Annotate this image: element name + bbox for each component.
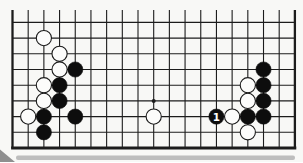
star-point: [152, 99, 156, 103]
black-stone: [256, 93, 271, 108]
black-stone: [36, 125, 51, 140]
white-stone: [36, 30, 51, 45]
white-stone: [52, 46, 67, 61]
black-stone: [256, 109, 271, 124]
white-stone: [36, 78, 51, 93]
go-diagram-scan: 1: [0, 0, 303, 162]
white-stone: [225, 109, 240, 124]
black-stone: [68, 109, 83, 124]
black-stone: [256, 78, 271, 93]
white-stone: [36, 93, 51, 108]
go-board: 1: [0, 0, 303, 162]
white-stone: [240, 78, 255, 93]
page-shadow-band: [16, 156, 295, 161]
black-stone: [52, 78, 67, 93]
black-stone: [36, 109, 51, 124]
black-stone: [240, 109, 255, 124]
page-corner-fold: [0, 150, 15, 163]
white-stone: [52, 62, 67, 77]
white-stone: [240, 93, 255, 108]
white-stone: [21, 109, 36, 124]
black-stone: [52, 93, 67, 108]
white-stone: [146, 109, 161, 124]
black-stone: [256, 62, 271, 77]
stone-move-number: 1: [213, 111, 220, 123]
white-stone: [240, 125, 255, 140]
black-stone: [68, 62, 83, 77]
